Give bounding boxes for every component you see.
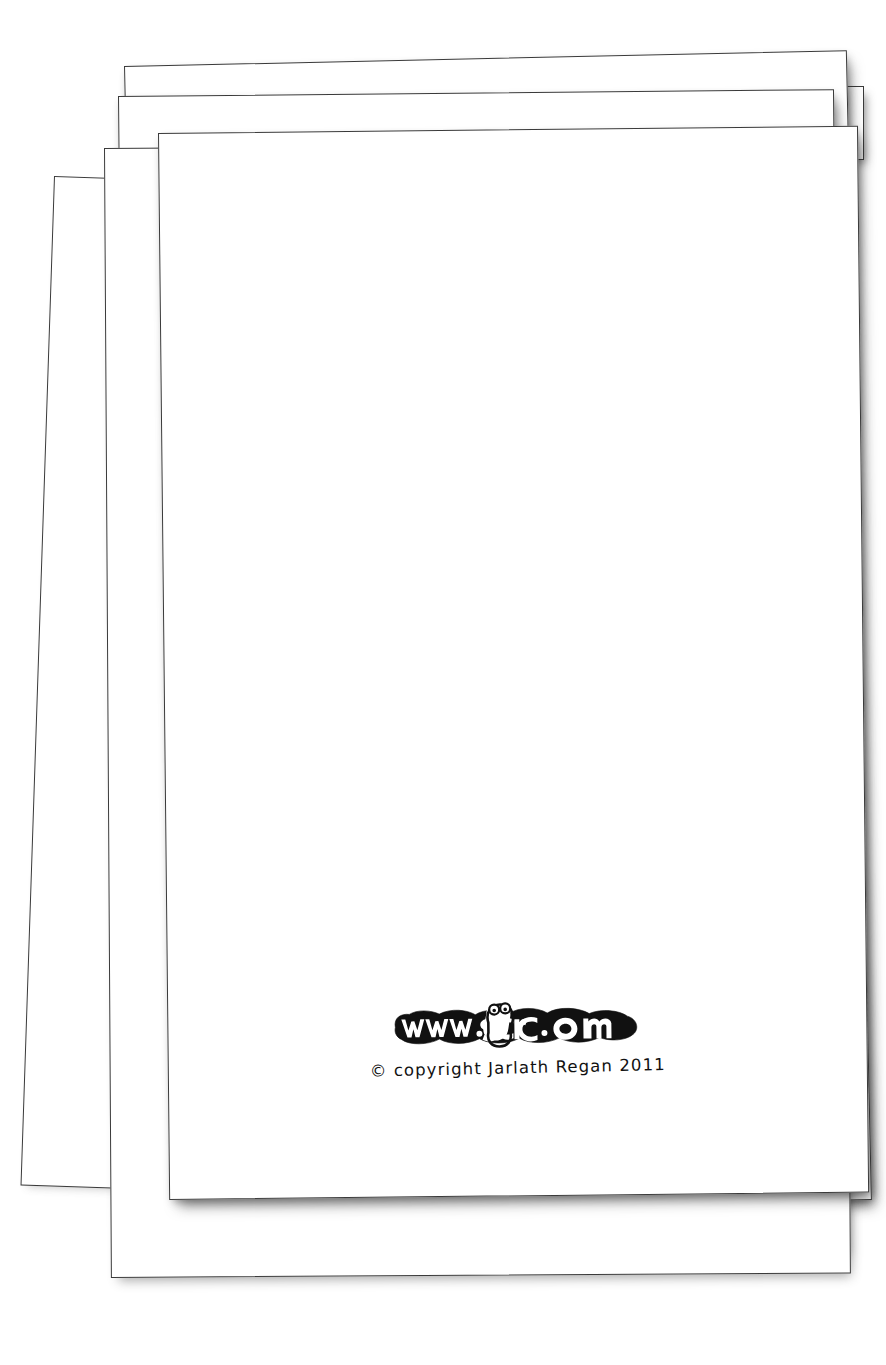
jigscr-logo-text: www.jigscr.com xyxy=(518,1048,519,1049)
copyright-text: © copyright Jarlath Regan 2011 xyxy=(169,1050,867,1085)
sheet-1-front: www.jigscr.com © copyright Jarlath Regan… xyxy=(158,126,869,1200)
front-sheet-body xyxy=(159,134,160,135)
front-sheet-footer: www.jigscr.com © copyright Jarlath Regan… xyxy=(168,989,867,1081)
jigscr-logo[interactable]: www.jigscr.com xyxy=(387,991,648,1050)
paper-stack-scan: www.jigscr.com © copyright Jarlath Regan… xyxy=(0,0,886,1365)
